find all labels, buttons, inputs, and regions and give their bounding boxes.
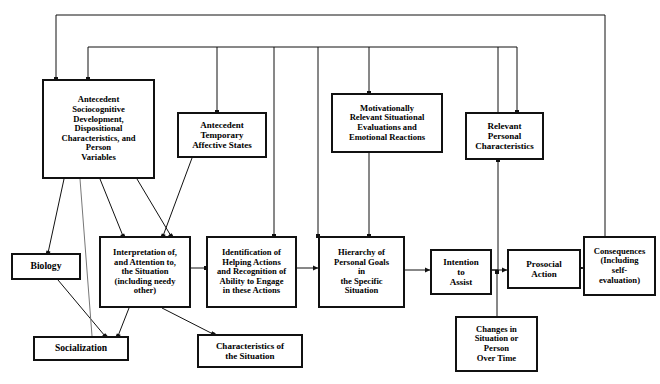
- wire-antecedent-temporary-to-interpretation: [163, 158, 192, 236]
- wire-biology-to-socialization: [58, 280, 105, 336]
- wire-interpretation-to-characteristics: [162, 308, 213, 334]
- wire-antecedent-sociocognitive-to-biology: [48, 179, 64, 253]
- node-label: Prosocial Action: [526, 259, 561, 279]
- node-label: Changes in Situation or Person Over Time: [475, 325, 519, 364]
- node-prosocial-action[interactable]: Prosocial Action: [507, 249, 581, 289]
- node-motivationally-relevant[interactable]: Motivationally Relevant Situational Eval…: [331, 93, 443, 153]
- node-interpretation[interactable]: Interpretation of, and Attention to, the…: [99, 236, 191, 308]
- node-intention-assist[interactable]: Intention to Assist: [430, 249, 492, 295]
- node-label: Intention to Assist: [443, 257, 479, 287]
- node-label: Antecedent Temporary Affective States: [192, 120, 252, 150]
- wire-relevant-personal-to-intention: [492, 160, 498, 270]
- diagram-canvas: Antecedent Sociocognitive Development, D…: [0, 0, 660, 384]
- node-antecedent-sociocognitive[interactable]: Antecedent Sociocognitive Development, D…: [42, 79, 155, 179]
- node-biology[interactable]: Biology: [11, 253, 81, 280]
- node-label: Antecedent Sociocognitive Development, D…: [62, 95, 136, 162]
- node-label: Relevant Personal Characteristics: [475, 121, 533, 151]
- node-identification-helping[interactable]: Identification of Helping Actions and Re…: [206, 236, 297, 308]
- node-label: Interpretation of, and Attention to, the…: [113, 248, 177, 296]
- node-changes-situation[interactable]: Changes in Situation or Person Over Time: [455, 316, 538, 372]
- node-label: Motivationally Relevant Situational Eval…: [349, 104, 425, 143]
- node-consequences[interactable]: Consequences (Including self- evaluation…: [583, 236, 656, 296]
- node-antecedent-temporary[interactable]: Antecedent Temporary Affective States: [177, 112, 267, 158]
- node-label: Consequences (Including self- evaluation…: [594, 247, 646, 286]
- wire-antecedent-sociocognitive-to-interpretation: [100, 179, 123, 236]
- connector-layer: [0, 0, 660, 384]
- node-socialization[interactable]: Socialization: [33, 336, 129, 361]
- node-hierarchy-goals[interactable]: Hierarchy of Personal Goals in the Speci…: [318, 236, 405, 308]
- wire-interpretation-to-socialization: [118, 308, 129, 336]
- node-label: Hierarchy of Personal Goals in the Speci…: [334, 248, 389, 296]
- node-label: Identification of Helping Actions and Re…: [217, 248, 286, 296]
- node-label: Socialization: [55, 343, 107, 354]
- node-label: Characteristics of the Situation: [216, 341, 284, 361]
- node-relevant-personal[interactable]: Relevant Personal Characteristics: [465, 112, 544, 160]
- node-label: Biology: [31, 261, 62, 272]
- wire-socialization-to-antecedent-sociocognitive: [80, 179, 92, 336]
- node-characteristics-situation[interactable]: Characteristics of the Situation: [197, 334, 303, 368]
